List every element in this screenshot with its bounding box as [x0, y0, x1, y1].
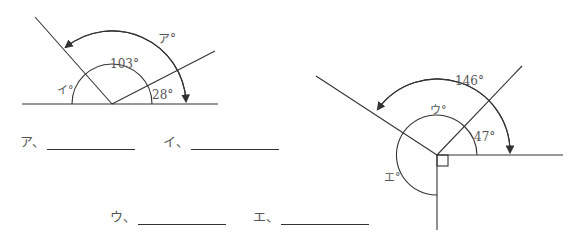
answer-a-blank[interactable]	[47, 137, 135, 150]
answer-e-label: エ、	[253, 206, 279, 225]
answer-a: ア、	[20, 131, 135, 150]
label-28: 28°	[152, 88, 173, 102]
label-e: エ°	[384, 168, 401, 184]
label-146: 146°	[455, 74, 484, 88]
answer-i-label: イ、	[163, 131, 189, 150]
answer-e: エ、	[253, 206, 369, 225]
answer-u-label: ウ、	[110, 206, 136, 225]
label-a: ア°	[158, 29, 176, 46]
answer-u: ウ、	[110, 206, 226, 225]
label-103: 103°	[110, 57, 139, 71]
label-u: ウ°	[430, 101, 447, 117]
answer-i-blank[interactable]	[191, 137, 279, 150]
answer-a-label: ア、	[20, 131, 45, 150]
answer-u-blank[interactable]	[138, 212, 226, 225]
answer-e-blank[interactable]	[281, 212, 369, 225]
label-47: 47°	[474, 130, 495, 144]
answer-i: イ、	[163, 131, 279, 150]
label-i: イ°	[57, 81, 74, 97]
